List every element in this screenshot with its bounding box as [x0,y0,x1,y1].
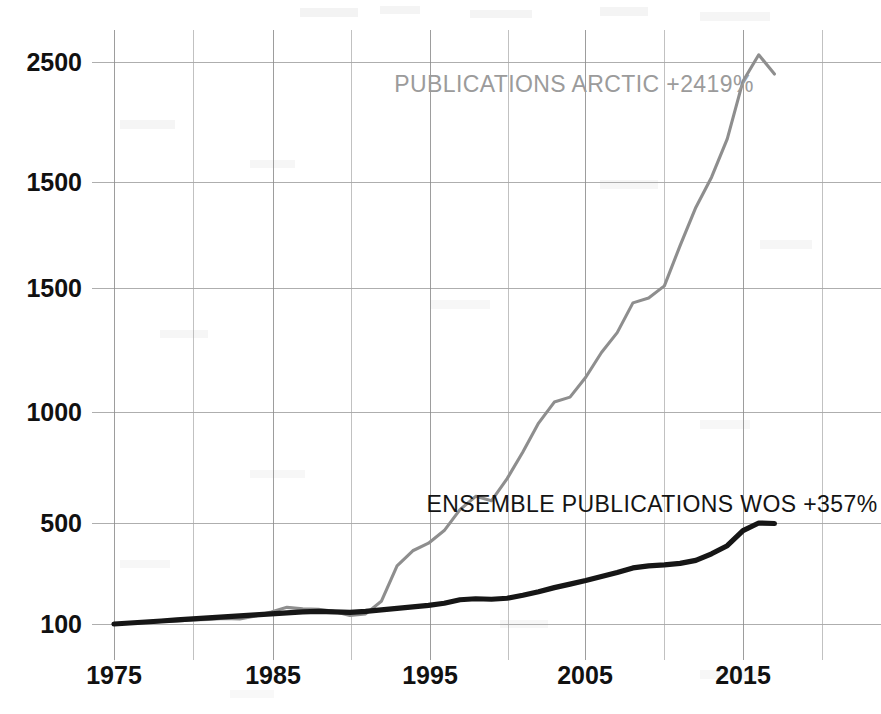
y-tick-label: 100 [40,610,82,638]
x-tick-label: 1985 [245,661,301,689]
line-chart: 2500 1500 1500 1000 500 100 1975 1985 19… [0,0,881,714]
y-tick-label: 1000 [26,398,82,426]
y-tick-label: 500 [40,509,82,537]
y-tick-label: 1500 [26,168,82,196]
series-annotation-wos: ENSEMBLE PUBLICATIONS WOS +357% [426,491,877,517]
chart-container: 2500 1500 1500 1000 500 100 1975 1985 19… [0,0,881,714]
series-annotation-arctic: PUBLICATIONS ARCTIC +2419% [394,71,754,97]
x-tick-label: 1995 [402,661,458,689]
y-tick-label: 2500 [26,48,82,76]
x-tick-label: 1975 [86,661,142,689]
y-tick-label: 1500 [26,274,82,302]
x-tick-label: 2005 [557,661,613,689]
chart-background [0,0,881,714]
x-tick-label: 2015 [715,661,771,689]
